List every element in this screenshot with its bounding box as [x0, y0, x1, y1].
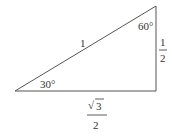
- angle-60-label: 60°: [138, 20, 153, 32]
- horizontal-side-denominator: 2: [93, 119, 99, 131]
- horizontal-side-numerator: 3: [96, 100, 102, 112]
- vertical-side-numerator: 1: [160, 36, 166, 48]
- angle-30-label: 30°: [40, 78, 55, 90]
- horizontal-side-radical: √: [88, 99, 95, 111]
- triangle: [15, 6, 156, 91]
- triangle-diagram: 30° 60° 1 1 2 √ 3 2: [0, 0, 172, 137]
- vertical-side-denominator: 2: [160, 52, 166, 64]
- hypotenuse-label: 1: [80, 37, 86, 49]
